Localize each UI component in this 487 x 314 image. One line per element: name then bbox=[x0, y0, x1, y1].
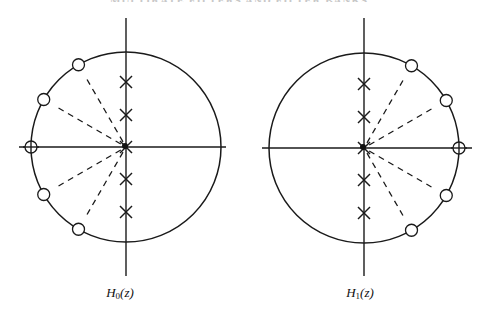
dashed-radial-line bbox=[369, 109, 431, 145]
dashed-radial-line bbox=[367, 153, 403, 215]
h1-label: H1(z) bbox=[346, 285, 374, 301]
h0-label: H0(z) bbox=[106, 285, 134, 301]
dashed-radial-line bbox=[87, 80, 123, 142]
origin-marker bbox=[122, 143, 128, 149]
h1-label-main: H bbox=[346, 285, 355, 300]
pole-zero-diagrams bbox=[0, 0, 487, 314]
pole-zero-plot-h0 bbox=[19, 18, 226, 276]
dashed-radial-line bbox=[367, 81, 403, 143]
dashed-radial-line bbox=[369, 151, 431, 187]
h0-label-main: H bbox=[106, 285, 115, 300]
zero-marker bbox=[73, 223, 85, 235]
dashed-radial-line bbox=[59, 108, 121, 144]
zero-marker bbox=[73, 59, 85, 71]
zero-marker bbox=[440, 95, 452, 107]
zero-marker bbox=[38, 189, 50, 201]
dashed-radial-line bbox=[59, 150, 121, 186]
zero-marker bbox=[406, 224, 418, 236]
h0-label-argument: (z) bbox=[120, 285, 134, 300]
zero-marker bbox=[406, 60, 418, 72]
zero-marker bbox=[38, 94, 50, 106]
h1-label-argument: (z) bbox=[360, 285, 374, 300]
pole-zero-plot-h1 bbox=[262, 18, 472, 276]
zero-marker bbox=[440, 190, 452, 202]
dashed-radial-line bbox=[87, 152, 123, 214]
origin-marker bbox=[360, 144, 366, 150]
